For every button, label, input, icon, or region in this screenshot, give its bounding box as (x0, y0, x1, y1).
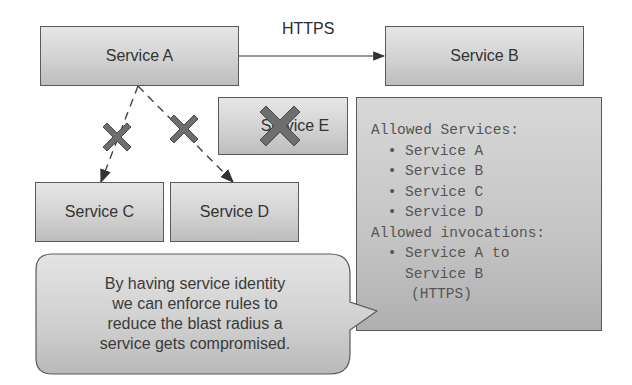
blocked-x-icon (170, 115, 198, 143)
callout-line: By having service identity (105, 274, 286, 294)
blocked-x-icon (103, 123, 131, 151)
callout-text: By having service identity we can enforc… (40, 254, 350, 374)
callout-line: service gets compromised. (100, 334, 290, 354)
callout-line: we can enforce rules to (112, 294, 277, 314)
callout-line: reduce the blast radius a (107, 314, 282, 334)
service-e-blocked-x-icon (260, 106, 300, 146)
